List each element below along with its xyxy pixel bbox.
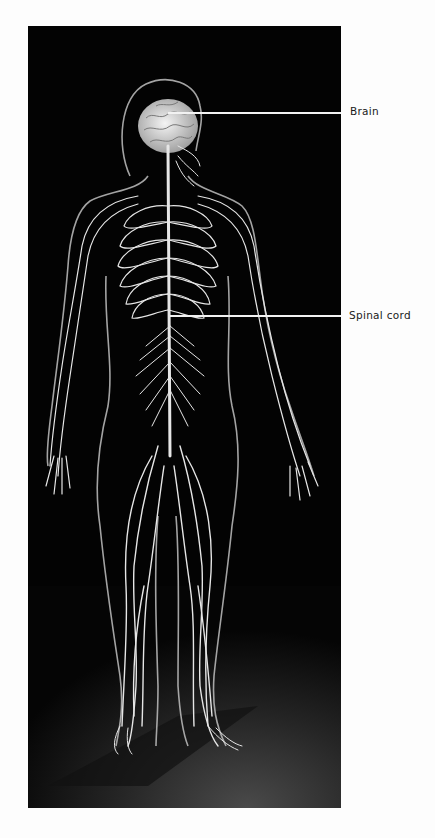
brain-leader-line: [168, 112, 341, 114]
illustration-frame: [28, 26, 341, 808]
brain-label: Brain: [350, 105, 379, 117]
nervous-system-figure: [28, 26, 341, 808]
spinal-cord-leader-line: [170, 315, 341, 317]
spinal-cord-label: Spinal cord: [349, 309, 411, 321]
